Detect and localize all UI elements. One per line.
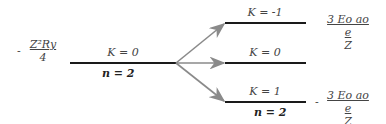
- left-energy-numerator: Z²Ry: [26, 38, 60, 51]
- k1-energy-fraction: 3 Eo ao e Z: [323, 89, 373, 124]
- k1-energy-denominator: Z: [323, 115, 373, 124]
- left-energy-fraction: Z²Ry 4: [26, 38, 60, 64]
- right-n-label: n = 2: [254, 106, 287, 119]
- arrow-down: [176, 63, 224, 101]
- arrow-up: [176, 24, 224, 63]
- stark-splitting-diagram: - Z²Ry 4 K = 0 n = 2 K = -1 K = 0 K = 1 …: [0, 0, 386, 124]
- k-minus1-label: K = -1: [240, 6, 290, 19]
- left-k-label: K = 0: [98, 46, 148, 59]
- left-energy-sign: -: [17, 45, 21, 58]
- left-energy-denominator: 4: [26, 51, 60, 64]
- k1-energy-numerator: 3 Eo ao e: [323, 89, 373, 115]
- k-minus1-energy-denominator: Z: [323, 39, 373, 52]
- k-minus1-energy-fraction: 3 Eo ao e Z: [323, 13, 373, 52]
- k0-label: K = 0: [240, 46, 290, 59]
- k1-energy-sign: -: [315, 96, 319, 109]
- k1-label: K = 1: [240, 85, 290, 98]
- k-minus1-energy-numerator: 3 Eo ao e: [323, 13, 373, 39]
- left-n-label: n = 2: [102, 67, 135, 80]
